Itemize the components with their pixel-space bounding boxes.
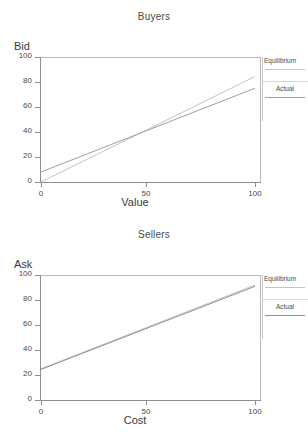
- series-line-equilibrium: [41, 77, 255, 183]
- plot-area-sellers: 100 80 60 40 20 0 0 50 100: [40, 275, 261, 401]
- legend-swatch-actual: [265, 97, 305, 98]
- y-tick-label-40: 40: [23, 344, 32, 353]
- y-tick-label-80: 80: [23, 76, 32, 85]
- legend-buyers: Equilibrium Actual: [262, 57, 308, 121]
- series-line-equilibrium: [41, 285, 255, 369]
- y-tick-label-80: 80: [23, 294, 32, 303]
- x-tick-label-50: 50: [142, 189, 151, 198]
- x-tick-label-0: 0: [39, 189, 43, 198]
- series-line-actual: [41, 286, 255, 369]
- legend-label-actual: Actual: [262, 303, 308, 310]
- legend-label-actual: Actual: [262, 85, 308, 92]
- x-tick-label-0: 0: [39, 407, 43, 416]
- x-tick-label-100: 100: [248, 407, 261, 416]
- y-tick-label-100: 100: [19, 269, 32, 278]
- legend-divider: [263, 299, 308, 300]
- y-tick-label-60: 60: [23, 319, 32, 328]
- y-tick-label-60: 60: [23, 101, 32, 110]
- x-tick-label-100: 100: [248, 189, 261, 198]
- chart-title-buyers: Buyers: [0, 11, 308, 22]
- chart-panel-sellers: Sellers Ask Cost 100 80 60 40 20 0 0 50 …: [0, 218, 308, 436]
- series-line-actual: [41, 88, 255, 172]
- y-tick-label-20: 20: [23, 369, 32, 378]
- legend-swatch-equilibrium: [265, 287, 305, 288]
- plot-area-buyers: 100 80 60 40 20 0 0 50 100: [40, 57, 261, 183]
- x-tick-label-50: 50: [142, 407, 151, 416]
- legend-swatch-equilibrium: [265, 69, 305, 70]
- legend-label-equilibrium: Equilibrium: [262, 57, 308, 64]
- series-lines-buyers: [40, 57, 261, 183]
- legend-swatch-actual: [265, 315, 305, 316]
- y-tick-label-100: 100: [19, 51, 32, 60]
- series-lines-sellers: [40, 275, 261, 401]
- chart-panel-buyers: Buyers Bid Value 100 80 60 40 20 0 0 50 …: [0, 0, 308, 218]
- legend-sellers: Equilibrium Actual: [262, 275, 308, 339]
- chart-title-sellers: Sellers: [0, 229, 308, 240]
- y-tick-label-0: 0: [28, 394, 32, 403]
- y-tick-label-40: 40: [23, 126, 32, 135]
- y-tick-label-0: 0: [28, 176, 32, 185]
- legend-label-equilibrium: Equilibrium: [262, 275, 308, 282]
- y-tick-label-20: 20: [23, 151, 32, 160]
- legend-divider: [263, 81, 308, 82]
